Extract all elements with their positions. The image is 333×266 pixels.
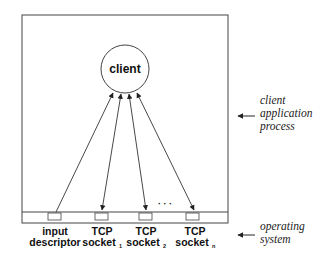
ellipsis: · · · xyxy=(158,199,172,209)
svg-text:descriptor: descriptor xyxy=(29,236,80,248)
label-socket-1: TCP socket 1 xyxy=(82,225,122,249)
arrow-socket-2 xyxy=(129,94,146,210)
label-socket-2: TCP socket 2 xyxy=(126,225,166,249)
svg-text:socket: socket xyxy=(126,236,160,248)
svg-text:n: n xyxy=(212,243,216,249)
slot-socket-1 xyxy=(95,213,108,220)
slot-input xyxy=(48,213,61,220)
svg-text:process: process xyxy=(259,120,295,133)
client-label: client xyxy=(109,62,140,76)
arrow-socket-1 xyxy=(102,94,121,210)
svg-text:socket: socket xyxy=(175,236,209,248)
svg-text:client: client xyxy=(260,94,286,106)
label-input: input descriptor xyxy=(29,225,80,248)
label-process: client application process xyxy=(259,94,313,133)
slot-socket-2 xyxy=(139,213,152,220)
arrow-socket-n xyxy=(137,93,194,210)
label-os: operating system xyxy=(260,220,305,246)
svg-text:operating: operating xyxy=(260,220,305,233)
slot-socket-n xyxy=(186,213,199,220)
svg-text:2: 2 xyxy=(163,243,166,249)
svg-text:system: system xyxy=(260,233,291,246)
diagram-canvas: client · · · input descriptor TCP socket… xyxy=(0,0,333,266)
svg-text:application: application xyxy=(260,107,313,120)
svg-text:socket: socket xyxy=(82,236,116,248)
label-socket-n: TCP socket n xyxy=(175,225,216,249)
svg-text:1: 1 xyxy=(119,243,122,249)
